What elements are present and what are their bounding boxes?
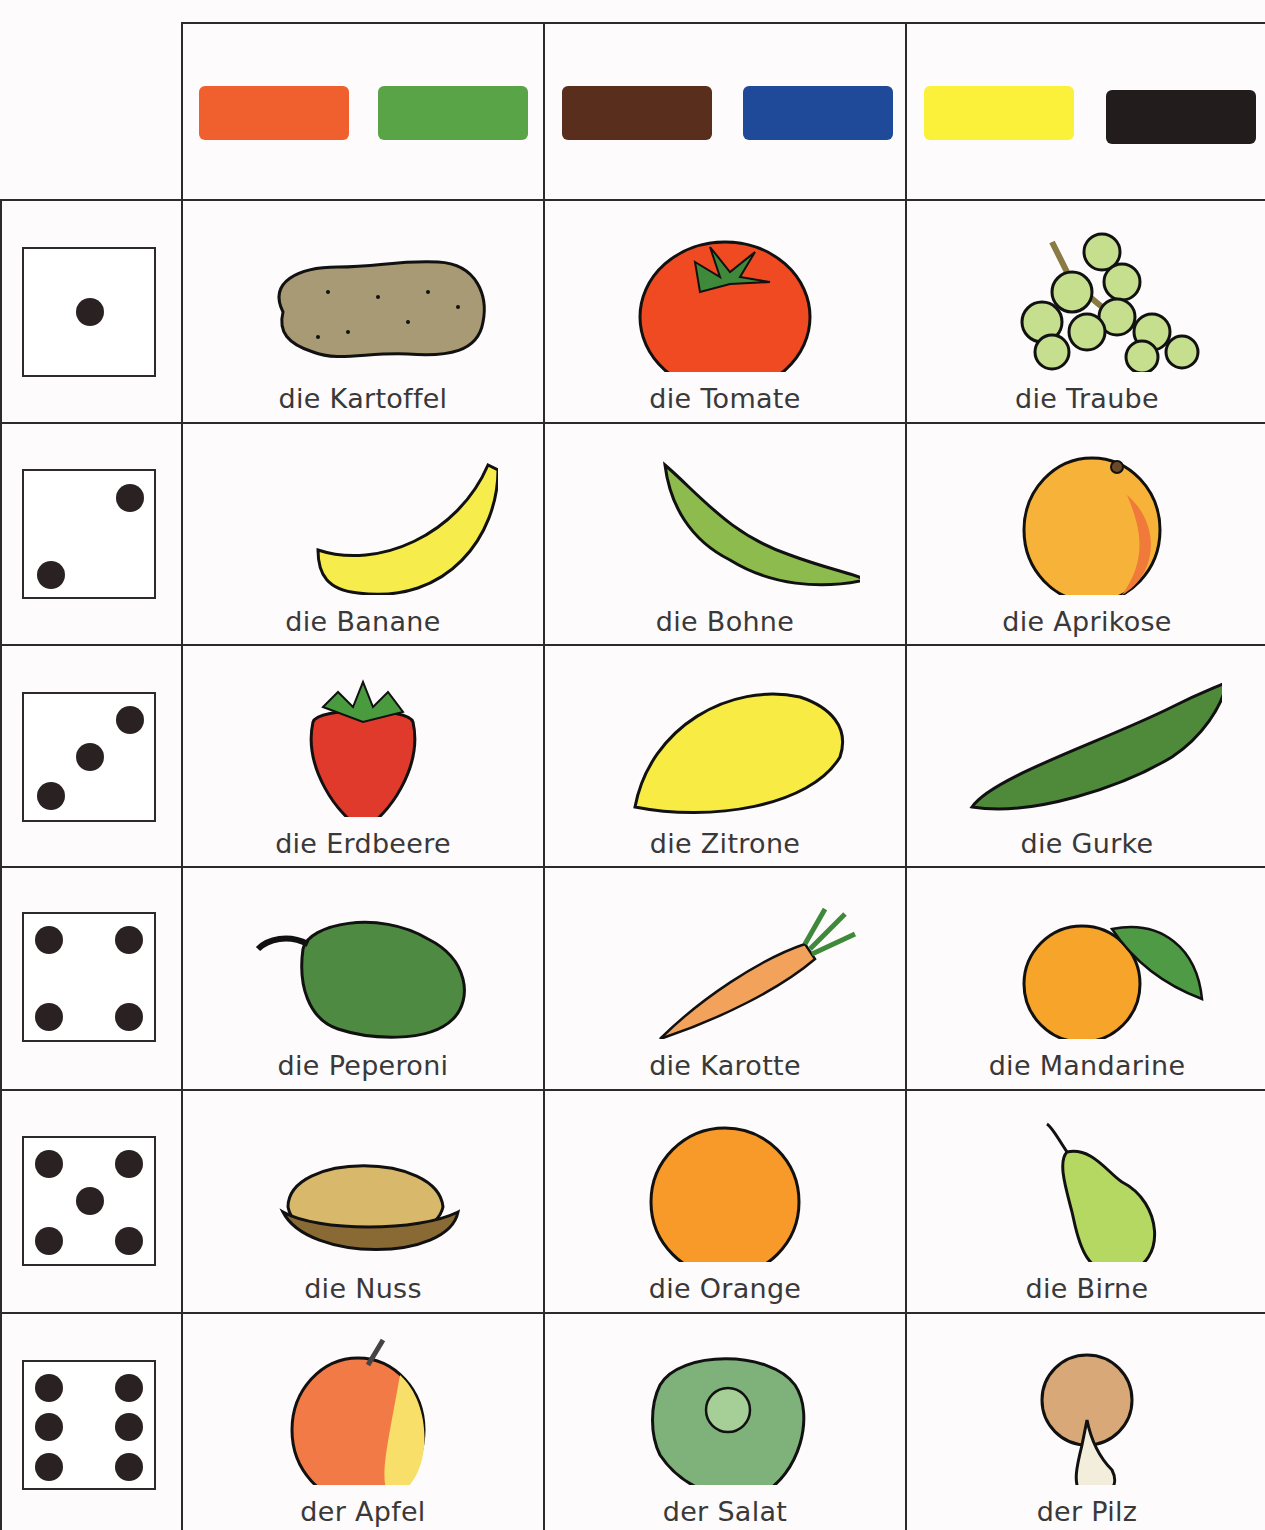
food-label: die Aprikose [906,606,1265,637]
color-swatch-black [1106,90,1256,144]
apple-icon [228,1335,498,1485]
mandarin-icon [952,889,1222,1039]
food-card: die Zitrone [544,645,906,867]
dice-pip [35,1374,63,1402]
color-swatch-brown [562,86,712,140]
food-card: der Apfel [182,1313,544,1530]
pear-icon [952,1112,1222,1262]
grapes-icon [952,222,1222,372]
food-label: die Bohne [544,606,906,637]
food-label: die Kartoffel [182,383,544,414]
dice-pip [37,561,65,589]
dice-pip [115,1003,143,1031]
dice-pip [35,1453,63,1481]
dice-face-2 [22,469,156,599]
food-label: die Gurke [906,828,1265,859]
food-label: die Banane [182,606,544,637]
dice-pip [115,1413,143,1441]
color-swatch-yellow [924,86,1074,140]
walnut-icon [228,1112,498,1262]
dice-pip [76,1187,104,1215]
lettuce-icon [590,1335,860,1485]
dice-face-4 [22,912,156,1042]
color-swatch-blue [743,86,893,140]
food-card: die Gurke [906,645,1265,867]
dice-pip [116,706,144,734]
apricot-icon [952,445,1222,595]
pepper-icon [228,889,498,1039]
dice-pip [37,782,65,810]
food-label: der Apfel [182,1496,544,1527]
dice-pip [35,1150,63,1178]
dice-pip [76,298,104,326]
bean-icon [590,445,860,595]
banana-icon [228,445,498,595]
dice-face-1 [22,247,156,377]
food-label: die Erdbeere [182,828,544,859]
dice-pip [35,1003,63,1031]
dice-pip [115,1453,143,1481]
food-card: die Orange [544,1090,906,1312]
mushroom-icon [952,1335,1222,1485]
potato-icon [228,222,498,372]
dice-face-6 [22,1360,156,1490]
cucumber-icon [952,667,1222,817]
tomato-icon [590,222,860,372]
food-card: die Aprikose [906,423,1265,645]
dice-pip [35,1413,63,1441]
food-card: die Nuss [182,1090,544,1312]
food-label: die Birne [906,1273,1265,1304]
food-label: die Karotte [544,1050,906,1081]
dice-pip [35,926,63,954]
dice-pip [116,484,144,512]
dice-pip [115,1227,143,1255]
food-card: die Mandarine [906,867,1265,1089]
food-card: die Birne [906,1090,1265,1312]
food-label: die Orange [544,1273,906,1304]
food-card: die Banane [182,423,544,645]
food-label: der Salat [544,1496,906,1527]
grid-line [181,22,1265,24]
food-label: die Zitrone [544,828,906,859]
food-card: die Karotte [544,867,906,1089]
food-label: die Mandarine [906,1050,1265,1081]
dice-pip [115,1374,143,1402]
carrot-icon [590,889,860,1039]
grid-line [0,199,2,1530]
food-label: die Traube [906,383,1265,414]
color-swatch-green [378,86,528,140]
food-label: die Nuss [182,1273,544,1304]
food-card: die Bohne [544,423,906,645]
strawberry-icon [228,667,498,817]
dice-pip [115,926,143,954]
food-label: die Tomate [544,383,906,414]
food-card: die Erdbeere [182,645,544,867]
food-card: die Tomate [544,200,906,422]
dice-pip [115,1150,143,1178]
food-card: die Traube [906,200,1265,422]
orange-icon [590,1112,860,1262]
food-card: die Peperoni [182,867,544,1089]
food-label: die Peperoni [182,1050,544,1081]
dice-pip [35,1227,63,1255]
food-card: die Kartoffel [182,200,544,422]
food-card: der Pilz [906,1313,1265,1530]
food-label: der Pilz [906,1496,1265,1527]
dice-pip [76,743,104,771]
dice-face-3 [22,692,156,822]
food-card: der Salat [544,1313,906,1530]
lemon-icon [590,667,860,817]
dice-face-5 [22,1136,156,1266]
color-swatch-orange [199,86,349,140]
